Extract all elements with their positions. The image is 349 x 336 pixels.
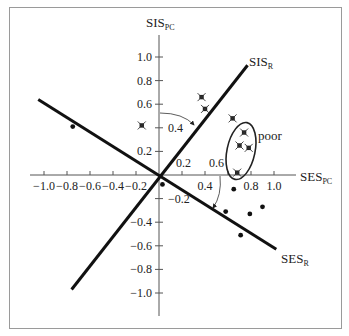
dot-marker	[238, 233, 243, 238]
x-tick-label: −1.0	[33, 179, 55, 193]
y-tick-label: −0.8	[130, 262, 152, 276]
ses-r-axis-line	[38, 99, 276, 249]
y-tick-label: 0.6	[137, 97, 152, 111]
x-tick-label: −0.4	[102, 179, 124, 193]
x-tick-label: 0.8	[244, 179, 259, 193]
rotation-arc-ses	[213, 176, 220, 208]
x-tick-label: 1.0	[267, 179, 282, 193]
x-tick-label: −0.2	[125, 179, 147, 193]
x-box-marker	[198, 93, 206, 101]
x-tick-label: −0.6	[79, 179, 101, 193]
axes: −1.0−0.8−0.6−0.4−0.20.40.81.01.00.80.60.…	[30, 35, 296, 316]
dot-marker	[247, 212, 252, 217]
x-box-marker	[138, 121, 146, 129]
rotated-axes	[38, 65, 276, 289]
x-axis-title: SESPC	[300, 169, 332, 186]
biplot-chart: −1.0−0.8−0.6−0.4−0.20.40.81.01.00.80.60.…	[0, 0, 349, 336]
sis-r-axis-title: SISR	[249, 54, 274, 71]
x-box-marker	[236, 142, 244, 150]
dot-marker	[231, 187, 236, 192]
x-box-marker	[229, 114, 237, 122]
dot-marker	[70, 124, 75, 129]
rotated-label-06: 0.6	[209, 156, 224, 170]
rotated-label-neg02: −0.2	[168, 192, 190, 206]
y-tick-label: −0.6	[130, 239, 152, 253]
ses-r-axis-title: SESR	[281, 251, 309, 268]
dot-marker	[223, 209, 228, 214]
x-box-marker	[201, 105, 209, 113]
poor-group-label: poor	[258, 128, 283, 143]
arc-label-sis: 0.4	[168, 121, 183, 135]
y-tick-label: 0.2	[137, 144, 152, 158]
y-tick-label: −0.4	[130, 215, 152, 229]
y-tick-label: 1.0	[137, 50, 152, 64]
y-axis-title: SISPC	[146, 15, 175, 32]
y-tick-label: 0.8	[137, 74, 152, 88]
x-box-marker	[245, 144, 253, 152]
dot-marker	[160, 182, 165, 187]
x-box-marker	[240, 129, 248, 137]
dot-marker	[260, 204, 265, 209]
x-tick-label: 0.4	[198, 179, 213, 193]
y-tick-label: −1.0	[130, 286, 152, 300]
rotated-label-02: 0.2	[176, 156, 191, 170]
x-tick-label: −0.8	[56, 179, 78, 193]
